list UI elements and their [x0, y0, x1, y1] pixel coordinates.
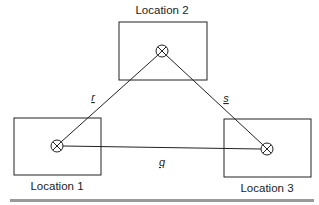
location-network-diagram: Location 1 Location 2 Location 3 r s q [0, 0, 319, 205]
node-location-1-icon [51, 140, 63, 152]
location-3-label: Location 3 [240, 182, 293, 194]
location-1-label: Location 1 [30, 180, 83, 192]
edge-q [63, 146, 261, 149]
edge-q-label: q [159, 156, 166, 168]
location-2-label: Location 2 [135, 4, 188, 16]
node-location-3-icon [261, 143, 273, 155]
edge-r-label: r [91, 91, 96, 103]
edge-s-label: s [223, 92, 229, 104]
edge-s [166, 55, 263, 145]
footer-divider [10, 199, 314, 202]
node-location-2-icon [156, 45, 168, 57]
edge-r [61, 55, 158, 142]
